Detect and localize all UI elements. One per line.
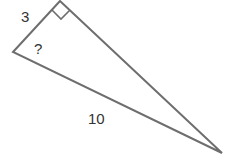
hypotenuse-label: 10 (88, 110, 105, 127)
right-angle-marker (52, 10, 70, 19)
unknown-angle-label: ? (34, 40, 42, 57)
leg-label: 3 (21, 8, 29, 25)
triangle-diagram: 3 ? 10 (0, 0, 228, 168)
triangle (13, 1, 222, 153)
